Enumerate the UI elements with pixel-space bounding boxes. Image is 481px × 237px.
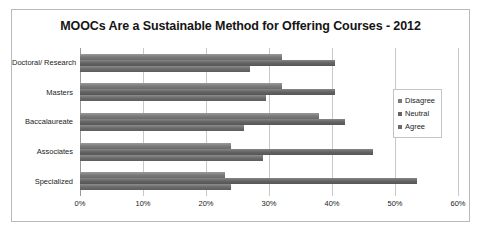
legend-item-agree[interactable]: Agree: [398, 120, 435, 133]
x-axis-tick-label: 0%: [75, 199, 86, 208]
x-axis-tick-label: 50%: [387, 199, 402, 208]
chart-legend: DisagreeNeutralAgree: [393, 89, 442, 138]
bar-agree: [80, 184, 231, 190]
legend-item-disagree[interactable]: Disagree: [398, 94, 435, 107]
chart-title: MOOCs Are a Sustainable Method for Offer…: [12, 19, 469, 33]
bar-group: [80, 141, 458, 162]
x-axis-tick-label: 20%: [198, 199, 213, 208]
y-axis-label: Specialized: [12, 171, 76, 192]
bar-agree: [80, 66, 250, 72]
x-axis-tick-label: 40%: [324, 199, 339, 208]
bar-agree: [80, 125, 244, 131]
chart-container: MOOCs Are a Sustainable Method for Offer…: [11, 9, 470, 222]
x-axis-tick-label: 30%: [261, 199, 276, 208]
legend-swatch-icon: [398, 125, 402, 129]
y-axis-category-labels: Doctoral/ ResearchMastersBaccalaureateAs…: [12, 48, 76, 196]
x-axis-tick-label: 60%: [450, 199, 465, 208]
bar-group: [80, 171, 458, 192]
legend-label: Disagree: [405, 96, 435, 105]
bar-agree: [80, 95, 266, 101]
gridline-60: [458, 48, 459, 196]
x-axis-tick-label: 10%: [135, 199, 150, 208]
y-axis-label: Baccalaureate: [12, 111, 76, 132]
bar-agree: [80, 155, 263, 161]
legend-item-neutral[interactable]: Neutral: [398, 107, 435, 120]
y-axis-label: Masters: [12, 82, 76, 103]
legend-label: Neutral: [405, 109, 429, 118]
legend-label: Agree: [405, 122, 425, 131]
bar-group: [80, 52, 458, 73]
legend-swatch-icon: [398, 112, 402, 116]
y-axis-label: Associates: [12, 141, 76, 162]
legend-swatch-icon: [398, 99, 402, 103]
x-axis-tick-labels: 0%10%20%30%40%50%60%: [80, 199, 458, 213]
y-axis-label: Doctoral/ Research: [12, 52, 76, 73]
